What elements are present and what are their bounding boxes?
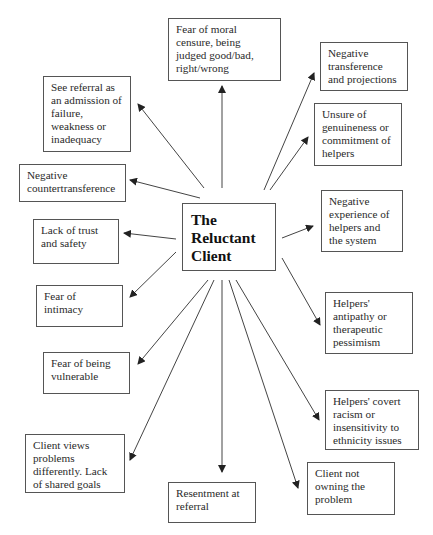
node-negative-countertransference: Negative countertransference — [19, 164, 126, 202]
node-fear-of-intimacy: Fear of intimacy — [36, 285, 123, 327]
node-negative-transference: Negative transference and projections — [320, 42, 408, 91]
arrow-views-differently — [130, 280, 214, 460]
arrow-lack-of-trust — [124, 233, 176, 239]
arrow-negative-transference — [264, 73, 314, 190]
center-node-reluctant-client: The Reluctant Client — [182, 203, 276, 271]
arrow-not-owning — [229, 280, 298, 488]
node-covert-racism: Helpers' covert racism or insensitivity … — [325, 390, 419, 450]
arrow-fear-of-intimacy — [130, 252, 176, 297]
node-not-owning: Client not owning the problem — [307, 462, 395, 515]
node-resentment: Resentment at referral — [168, 482, 256, 523]
arrow-negative-experience — [282, 226, 313, 238]
node-admission-of-failure: See referral as an admission of failure,… — [43, 76, 131, 152]
node-moral-censure: Fear of moral censure, being judged good… — [168, 18, 281, 81]
arrow-antipathy — [282, 258, 320, 325]
node-lack-of-trust: Lack of trust and safety — [33, 219, 119, 264]
arrow-admission-of-failure — [138, 104, 204, 188]
node-antipathy: Helpers' antipathy or therapeutic pessim… — [325, 292, 413, 354]
node-fear-of-vulnerable: Fear of being vulnerable — [43, 352, 130, 394]
node-views-differently: Client views problems differently. Lack … — [25, 434, 125, 493]
node-unsure-genuineness: Unsure of genuineness or commitment of h… — [314, 103, 402, 166]
node-negative-experience: Negative experience of helpers and the s… — [321, 190, 403, 252]
arrow-fear-of-vulnerable — [138, 280, 208, 364]
arrow-negative-countertransference — [130, 180, 200, 198]
